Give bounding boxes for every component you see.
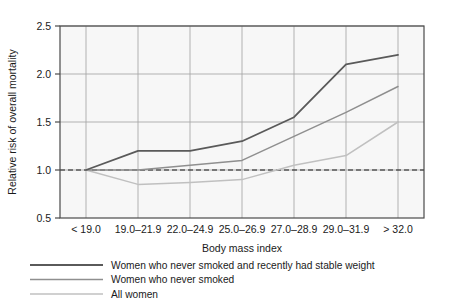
chart-figure: 0.51.01.52.02.5 < 19.019.0–21.922.0–24.9… xyxy=(0,0,458,305)
x-axis-title: Body mass index xyxy=(202,242,283,254)
x-axis-tick-label: 27.0–28.9 xyxy=(271,223,318,235)
y-axis-tick-label: 1.0 xyxy=(36,164,51,176)
mortality-bmi-line-chart: 0.51.01.52.02.5 < 19.019.0–21.922.0–24.9… xyxy=(0,0,458,305)
y-axis-tick-label: 2.0 xyxy=(36,68,51,80)
x-axis-tick-label: 29.0–31.9 xyxy=(323,223,370,235)
x-axis-tick-labels: < 19.019.0–21.922.0–24.925.0–26.927.0–28… xyxy=(71,223,413,235)
x-axis-tick-label: > 32.0 xyxy=(383,223,413,235)
legend-label: Women who never smoked and recently had … xyxy=(111,260,375,271)
y-axis-tick-label: 0.5 xyxy=(36,212,51,224)
x-axis-tick-label: 22.0–24.9 xyxy=(167,223,214,235)
y-axis-tick-label: 1.5 xyxy=(36,116,51,128)
x-axis-tick-label: 25.0–26.9 xyxy=(219,223,266,235)
legend-label: All women xyxy=(111,289,158,300)
x-axis-tick-label: 19.0–21.9 xyxy=(115,223,162,235)
y-axis-title: Relative risk of overall mortality xyxy=(6,49,18,195)
x-axis-tick-label: < 19.0 xyxy=(71,223,101,235)
y-axis-tick-label: 2.5 xyxy=(36,20,51,32)
legend-label: Women who never smoked xyxy=(111,274,235,285)
